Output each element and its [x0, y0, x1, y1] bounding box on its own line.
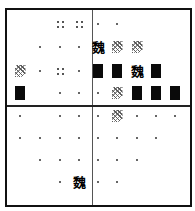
hatched-tile-icon: [132, 41, 143, 53]
dot-marker-icon: [78, 159, 80, 161]
dot-marker-icon: [39, 159, 41, 161]
dot-marker-icon: [78, 70, 80, 72]
dot-marker-icon: [78, 46, 80, 48]
dot-marker-icon: [78, 92, 80, 94]
board-cell-r8-c4[interactable]: 魏: [71, 173, 87, 191]
board-cell-r3-c8[interactable]: [148, 62, 164, 80]
hatched-tile-icon: [112, 41, 123, 53]
board-cell-r7-c2[interactable]: [32, 151, 48, 169]
board-cell-r2-c7[interactable]: [129, 38, 145, 56]
dot-marker-icon: [97, 23, 99, 25]
black-tile-icon: [93, 64, 103, 78]
board-cell-r7-c3[interactable]: [52, 151, 68, 169]
board-cell-r3-c2[interactable]: [32, 62, 48, 80]
dot-marker-icon: [59, 159, 61, 161]
board-cell-r1-c6[interactable]: [109, 15, 125, 33]
dot-marker-icon: [78, 137, 80, 139]
hatched-tile-icon: [15, 65, 26, 77]
board-cell-r6-c5[interactable]: [90, 129, 106, 147]
board-cell-r6-c8[interactable]: [148, 129, 164, 147]
dot-marker-icon: [97, 137, 99, 139]
board-cell-r3-c6[interactable]: [109, 62, 125, 80]
black-tile-icon: [151, 64, 161, 78]
board-cell-r4-c1[interactable]: [12, 84, 28, 102]
dot-marker-icon: [97, 181, 99, 183]
board-cell-r3-c5[interactable]: [90, 62, 106, 80]
board-cell-r2-c4[interactable]: [71, 38, 87, 56]
black-tile-icon: [151, 86, 161, 100]
board-cell-r3-c1[interactable]: [12, 62, 28, 80]
board-cell-r5-c6[interactable]: [109, 107, 125, 125]
four-dot-marker-icon: [76, 21, 83, 28]
board-cell-r5-c3[interactable]: [52, 107, 68, 125]
board-cell-r1-c5[interactable]: [90, 15, 106, 33]
board-cell-r5-c1[interactable]: [12, 107, 28, 125]
board-cell-r3-c4[interactable]: [71, 62, 87, 80]
board-cell-r6-c7[interactable]: [129, 129, 145, 147]
board-cell-r3-c3[interactable]: [52, 62, 68, 80]
dot-marker-icon: [116, 23, 118, 25]
board-cell-r6-c2[interactable]: [32, 129, 48, 147]
board-cell-r8-c5[interactable]: [90, 173, 106, 191]
board-cell-r4-c9[interactable]: [167, 84, 183, 102]
board-cell-r4-c8[interactable]: [148, 84, 164, 102]
board-cell-r5-c8[interactable]: [148, 107, 164, 125]
board-cell-r1-c3[interactable]: [52, 15, 68, 33]
black-tile-icon: [15, 86, 25, 100]
dot-marker-icon: [97, 159, 99, 161]
board-cell-r2-c3[interactable]: [52, 38, 68, 56]
black-tile-icon: [112, 64, 122, 78]
character-tile-icon: 魏: [92, 41, 105, 54]
dot-marker-icon: [174, 115, 176, 117]
board-cell-r6-c3[interactable]: [52, 129, 68, 147]
dot-marker-icon: [59, 137, 61, 139]
four-dot-marker-icon: [57, 68, 64, 75]
board-cell-r5-c5[interactable]: [90, 107, 106, 125]
dot-marker-icon: [59, 92, 61, 94]
dot-marker-icon: [116, 137, 118, 139]
dot-marker-icon: [19, 137, 21, 139]
board-cell-r8-c6[interactable]: [109, 173, 125, 191]
dot-marker-icon: [59, 181, 61, 183]
character-tile-icon: 魏: [131, 65, 144, 78]
dot-marker-icon: [97, 92, 99, 94]
dot-marker-icon: [59, 46, 61, 48]
board-cell-r3-c7[interactable]: 魏: [129, 62, 145, 80]
dot-marker-icon: [136, 115, 138, 117]
board-cell-r6-c1[interactable]: [12, 129, 28, 147]
board-cell-r7-c5[interactable]: [90, 151, 106, 169]
board-cell-r1-c4[interactable]: [71, 15, 87, 33]
board-cell-r4-c4[interactable]: [71, 84, 87, 102]
board-cell-r5-c9[interactable]: [167, 107, 183, 125]
board-cell-r4-c3[interactable]: [52, 84, 68, 102]
dot-marker-icon: [136, 159, 138, 161]
board-cell-r6-c6[interactable]: [109, 129, 125, 147]
board-cell-r4-c6[interactable]: [109, 84, 125, 102]
character-tile-icon: 魏: [73, 176, 86, 189]
dot-marker-icon: [78, 115, 80, 117]
board-cell-r7-c6[interactable]: [109, 151, 125, 169]
hatched-tile-icon: [112, 87, 123, 99]
board-cell-r7-c7[interactable]: [129, 151, 145, 169]
dot-marker-icon: [39, 137, 41, 139]
dot-marker-icon: [97, 115, 99, 117]
board-cell-r6-c4[interactable]: [71, 129, 87, 147]
four-dot-marker-icon: [57, 21, 64, 28]
board-cell-r4-c5[interactable]: [90, 84, 106, 102]
hatched-tile-icon: [112, 110, 123, 122]
board-cell-r5-c7[interactable]: [129, 107, 145, 125]
board-cell-r8-c3[interactable]: [52, 173, 68, 191]
board-cell-r2-c5[interactable]: 魏: [90, 38, 106, 56]
board-cell-r2-c2[interactable]: [32, 38, 48, 56]
board-cell-r7-c4[interactable]: [71, 151, 87, 169]
board-cell-r2-c6[interactable]: [109, 38, 125, 56]
board-cell-r4-c7[interactable]: [129, 84, 145, 102]
dot-marker-icon: [39, 46, 41, 48]
game-board: 魏魏魏: [5, 8, 192, 207]
dot-marker-icon: [116, 159, 118, 161]
dot-marker-icon: [136, 137, 138, 139]
board-cell-r5-c4[interactable]: [71, 107, 87, 125]
dot-marker-icon: [59, 115, 61, 117]
dot-marker-icon: [39, 70, 41, 72]
dot-marker-icon: [155, 115, 157, 117]
